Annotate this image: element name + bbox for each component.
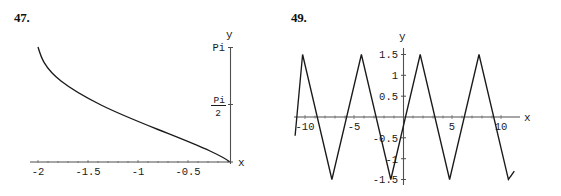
x-axis-label-47: x — [238, 157, 245, 169]
figure-47: 47. — [0, 0, 280, 196]
figure-47-plot: -2 -1.5 -1 -0.5 Pi Pi 2 x y — [0, 0, 280, 196]
x-tick-label-47-1: -1.5 — [75, 166, 100, 178]
figure-page: 47. — [0, 0, 561, 196]
figure-49-plot: -10 -5 5 10 1.5 1 0.5 -0.5 -1 -1.5 x y — [280, 0, 561, 196]
x-axis-label-49: x — [524, 112, 531, 124]
fraction-numerator: Pi — [214, 95, 226, 106]
x-tick-label-49-1: -5 — [348, 121, 361, 133]
x-tick-label-47-2: -1 — [132, 166, 145, 178]
y-tick-label-49-3: 0.5 — [379, 91, 398, 103]
y-axis-label-49: y — [399, 31, 406, 43]
y-tick-label-49-4: 1 — [392, 70, 398, 82]
y-tick-label-49-0: -1.5 — [373, 174, 398, 186]
fraction-denominator: 2 — [215, 108, 221, 119]
x-tick-label-49-0: -10 — [296, 121, 315, 133]
x-tick-label-49-2: 5 — [449, 121, 455, 133]
figure-49: 49. — [280, 0, 561, 196]
y-tick-label-49-2: -0.5 — [373, 133, 398, 145]
y-axis-label-47: y — [226, 29, 233, 41]
y-tick-label-47-pi-over-2: Pi 2 — [211, 95, 226, 119]
y-tick-label-47-pi: Pi — [212, 42, 225, 54]
x-tick-label-47-3: -0.5 — [175, 166, 200, 178]
curve-47 — [38, 47, 230, 162]
y-tick-label-49-5: 1.5 — [379, 49, 398, 61]
x-tick-label-47-0: -2 — [32, 166, 45, 178]
